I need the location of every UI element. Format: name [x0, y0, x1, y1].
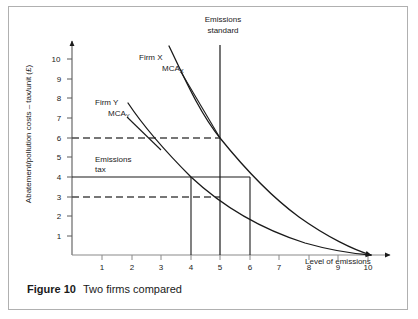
figure-frame: 1 2 3 4 5 6 7 8 9 10 1 2 3 4 5 6 7 8 9 1…	[8, 6, 408, 310]
y-tick-label-4: 4	[51, 173, 67, 182]
y-axis-ticks	[67, 59, 72, 236]
annotation-mca-x: MCAX	[162, 64, 184, 75]
x-tick-label-1: 1	[94, 263, 110, 272]
annotation-emissions-standard-line2: standard	[192, 26, 254, 37]
y-tick-label-8: 8	[51, 94, 67, 103]
annotation-emissions-tax-line2: tax	[95, 165, 106, 176]
annotation-firm-x: Firm X	[139, 53, 163, 64]
annotation-emissions-standard: Emissions standard	[192, 15, 254, 36]
y-tick-label-7: 7	[51, 114, 67, 123]
annotation-emissions-tax-line1: Emissions	[95, 155, 131, 166]
figure-caption-label: Figure 10	[27, 283, 76, 295]
annotation-mca-y-sub: Y	[126, 113, 130, 119]
figure-caption-text: Two firms compared	[83, 283, 182, 295]
leader-line-mca-y	[127, 117, 161, 150]
annotation-mca-y-base: MCA	[108, 109, 126, 118]
y-tick-label-2: 2	[51, 212, 67, 221]
curve-mca-x	[169, 46, 371, 255]
x-tick-label-2: 2	[124, 263, 140, 272]
y-tick-label-6: 6	[51, 134, 67, 143]
chart-svg	[9, 7, 409, 273]
x-axis-title: Level of emissions	[305, 257, 371, 266]
annotation-mca-y: MCAY	[108, 109, 130, 120]
y-tick-label-9: 9	[51, 75, 67, 84]
x-tick-label-7: 7	[271, 263, 287, 272]
x-tick-label-5: 5	[212, 263, 228, 272]
x-tick-label-6: 6	[242, 263, 258, 272]
leader-line-mca-x	[181, 72, 220, 138]
y-tick-label-10: 10	[48, 55, 64, 64]
y-axis-title: Abatement/pollution costs – tax/unit (£)	[17, 54, 35, 214]
annotation-mca-x-sub: X	[180, 68, 184, 74]
x-tick-label-4: 4	[183, 263, 199, 272]
annotation-emissions-standard-line1: Emissions	[192, 15, 254, 26]
y-tick-label-1: 1	[51, 232, 67, 241]
x-tick-label-3: 3	[153, 263, 169, 272]
y-axis-title-text: Abatement/pollution costs – tax/unit (£)	[24, 65, 33, 203]
y-tick-label-5: 5	[51, 153, 67, 162]
annotation-firm-y: Firm Y	[95, 98, 118, 109]
chart-plot-area: 1 2 3 4 5 6 7 8 9 10 1 2 3 4 5 6 7 8 9 1…	[9, 7, 409, 273]
annotation-mca-x-base: MCA	[162, 64, 180, 73]
figure-caption: Figure 10Two firms compared	[27, 283, 182, 295]
y-tick-label-3: 3	[51, 193, 67, 202]
